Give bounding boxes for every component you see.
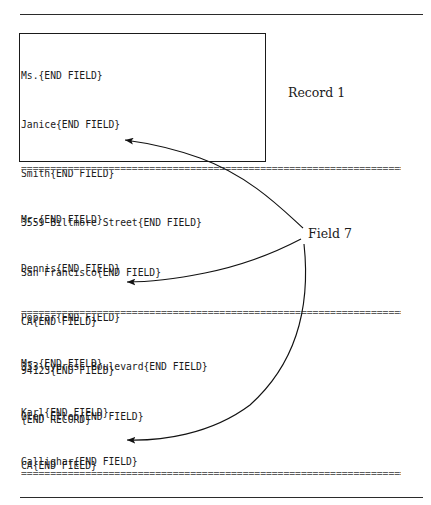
field-7-arrow-record-2 xyxy=(127,239,301,282)
field-7-arrow-record-1 xyxy=(125,140,303,228)
field-7-arrow-record-3 xyxy=(127,244,306,440)
callout-arrows xyxy=(0,0,431,505)
bottom-horizontal-rule xyxy=(20,497,423,498)
diagram-canvas: Ms.{END FIELD} Janice{END FIELD} Smith{E… xyxy=(0,0,431,505)
